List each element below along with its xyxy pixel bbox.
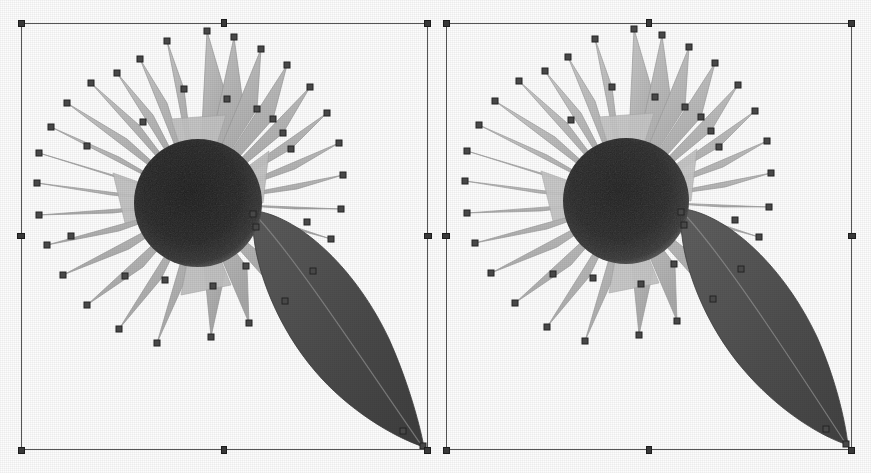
handle-bottom-left-right[interactable] <box>443 447 450 454</box>
handle-bottom-right-right[interactable] <box>848 447 855 454</box>
handle-middle-right-left[interactable] <box>424 233 432 239</box>
handle-top-right-left[interactable] <box>424 20 431 27</box>
handle-middle-left-left[interactable] <box>17 233 25 239</box>
selection-bounding-box-left[interactable] <box>21 23 428 450</box>
handle-top-center-left[interactable] <box>221 19 227 27</box>
handle-bottom-center-right[interactable] <box>646 446 652 454</box>
handle-bottom-left-left[interactable] <box>18 447 25 454</box>
handle-middle-left-right[interactable] <box>442 233 450 239</box>
handle-top-right-right[interactable] <box>848 20 855 27</box>
handle-top-left-left[interactable] <box>18 20 25 27</box>
handle-bottom-center-left[interactable] <box>221 446 227 454</box>
handle-bottom-right-left[interactable] <box>424 447 431 454</box>
selection-bounding-box-right[interactable] <box>446 23 852 450</box>
handle-top-left-right[interactable] <box>443 20 450 27</box>
handle-middle-right-right[interactable] <box>848 233 856 239</box>
editor-canvas <box>0 0 871 473</box>
handle-top-center-right[interactable] <box>646 19 652 27</box>
